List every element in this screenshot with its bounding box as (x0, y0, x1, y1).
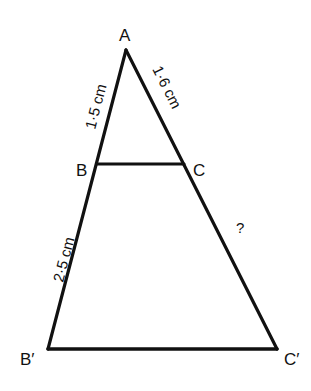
vertex-label-b: B (76, 161, 87, 180)
side-a-b-prime (48, 50, 126, 349)
vertex-label-a: A (119, 26, 131, 45)
vertex-label-c: C (193, 161, 205, 180)
side-a-c-prime (126, 50, 277, 349)
vertex-label-c-prime: C′ (284, 350, 299, 369)
measure-bb-prime: 2·5 cm (49, 235, 77, 284)
measure-cc-prime-unknown: ? (236, 219, 244, 236)
triangle-diagram: A B C B′ C′ 1·5 cm 1·6 cm 2·5 cm ? (0, 0, 311, 391)
vertex-label-b-prime: B′ (20, 350, 35, 369)
